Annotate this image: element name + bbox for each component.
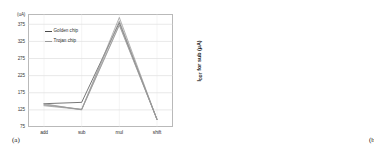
panel-a-caption: (a) bbox=[12, 136, 20, 144]
y-label-rest: for sub (µA) bbox=[196, 40, 202, 72]
panel-a-x-tick: shift bbox=[144, 130, 170, 135]
panel-a: (uA) Golden chip Trojan chip 37532527522… bbox=[0, 0, 187, 156]
legend-item-trojan-chip: Trojan chip bbox=[45, 36, 78, 46]
panel-a-y-tick: 275 bbox=[3, 56, 25, 61]
panel-a-x-tick: sub bbox=[69, 130, 95, 135]
panel-a-y-tick: 75 bbox=[3, 124, 25, 129]
panel-a-y-tick: 175 bbox=[3, 90, 25, 95]
panel-a-y-tick: 125 bbox=[3, 107, 25, 112]
y-label-main: I bbox=[196, 80, 202, 82]
line-swatch-icon bbox=[45, 41, 52, 42]
legend-item-golden-chip: Golden chip bbox=[45, 26, 78, 36]
panel-b-caption: (b) bbox=[369, 136, 374, 144]
panel-a-x-tick: mul bbox=[106, 130, 132, 135]
figure-container: (uA) Golden chip Trojan chip 37532527522… bbox=[0, 0, 374, 156]
panel-a-x-tick: add bbox=[31, 130, 57, 135]
panel-a-legend: Golden chip Trojan chip bbox=[45, 26, 78, 46]
legend-label-golden-chip: Golden chip bbox=[54, 26, 79, 36]
panel-a-unit-label: (uA) bbox=[17, 12, 25, 17]
panel-a-y-tick: 325 bbox=[3, 39, 25, 44]
line-swatch-icon bbox=[45, 31, 52, 32]
panel-b-y-axis-label: IDDT for sub (µA) bbox=[196, 21, 202, 101]
panel-a-y-tick: 225 bbox=[3, 73, 25, 78]
panel-b: Golden Trojan 155150145140135130125 1451… bbox=[187, 0, 374, 156]
legend-label-trojan-chip: Trojan chip bbox=[54, 36, 77, 46]
panel-a-y-tick: 375 bbox=[3, 22, 25, 27]
y-label-sub: DDT bbox=[199, 72, 203, 80]
